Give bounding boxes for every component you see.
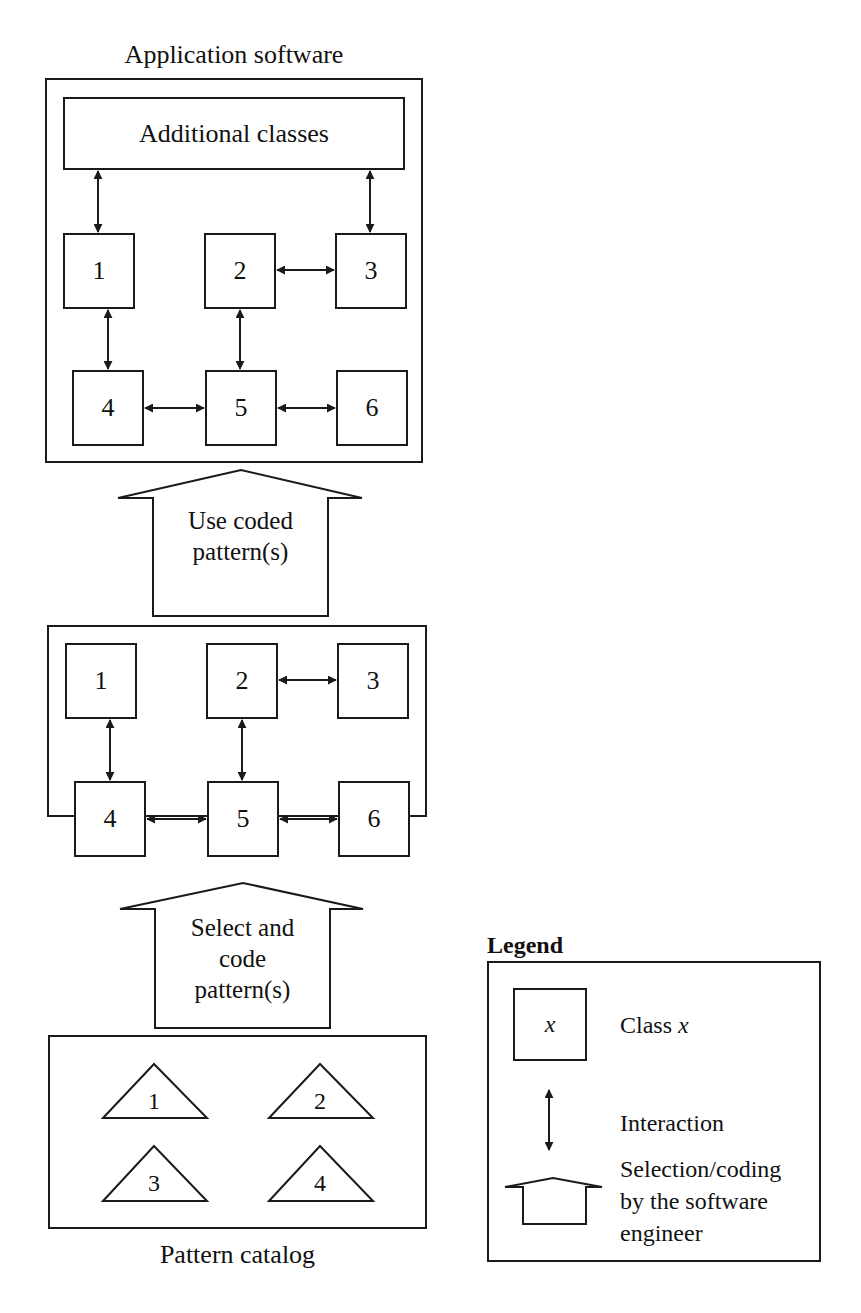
legend-selection-coding-icon [505, 1178, 602, 1224]
use-coded-arrow-line1: Use coded [153, 505, 328, 536]
select-arrow-line2: code [155, 943, 330, 974]
pattern-2-label: 2 [305, 1088, 335, 1115]
pattern-1-label: 1 [139, 1088, 169, 1115]
diagram-connectors [0, 0, 861, 1313]
select-arrow-line1: Select and [155, 912, 330, 943]
pattern-3-label: 3 [139, 1170, 169, 1197]
use-coded-arrow-line2: pattern(s) [153, 536, 328, 567]
pattern-4-label: 4 [305, 1170, 335, 1197]
select-arrow-line3: pattern(s) [155, 974, 330, 1005]
